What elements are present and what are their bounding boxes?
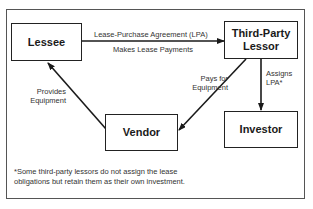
node-third-party-lessor: Third-Party Lessor bbox=[224, 21, 298, 59]
edge-label-assigns-lpa: Assigns LPA* bbox=[266, 69, 292, 87]
edge-label-pays-line1: Pays for bbox=[180, 74, 228, 83]
edge-label-pays-for-equipment: Pays for Equipment bbox=[180, 74, 228, 92]
node-lessee: Lessee bbox=[11, 23, 82, 61]
footnote-line1: *Some third-party lessors do not assign … bbox=[14, 167, 304, 177]
footnote-line2: obligations but retain them as their own… bbox=[14, 177, 304, 187]
edge-label-pays-line2: Equipment bbox=[180, 83, 228, 92]
edge-label-assigns-line1: Assigns bbox=[266, 69, 292, 78]
footnote: *Some third-party lessors do not assign … bbox=[14, 167, 304, 187]
edge-label-provides-line2: Equipment bbox=[12, 96, 66, 105]
node-vendor-label: Vendor bbox=[123, 126, 160, 139]
edge-label-provides-equipment: Provides Equipment bbox=[12, 87, 66, 105]
node-investor-label: Investor bbox=[240, 123, 283, 136]
node-investor: Investor bbox=[224, 111, 298, 148]
edge-label-provides-line1: Provides bbox=[12, 87, 66, 96]
node-lessor-label-line1: Third-Party bbox=[232, 27, 291, 40]
node-lessee-label: Lessee bbox=[28, 36, 65, 49]
edge-label-lpa: Lease-Purchase Agreement (LPA) bbox=[94, 30, 208, 39]
node-vendor: Vendor bbox=[105, 114, 178, 151]
edge-label-payments: Makes Lease Payments bbox=[113, 45, 193, 54]
edge-label-assigns-line2: LPA* bbox=[266, 78, 292, 87]
node-lessor-label-line2: Lessor bbox=[243, 40, 279, 53]
